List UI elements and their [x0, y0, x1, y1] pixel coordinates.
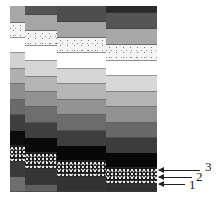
- layer-band: [10, 177, 25, 192]
- speckled-layer-band: [106, 168, 157, 184]
- layer-column-3: [57, 6, 106, 192]
- layer-band: [25, 107, 57, 123]
- speckled-layer-band: [10, 146, 25, 162]
- layer-band: [10, 38, 25, 53]
- layer-band: [57, 22, 106, 38]
- layer-band: [57, 84, 106, 100]
- layer-band: [25, 61, 57, 77]
- layer-band: [106, 153, 157, 168]
- layer-band: [106, 107, 157, 123]
- arrow-3-icon: [159, 170, 200, 171]
- layer-band: [10, 69, 25, 84]
- layer-band: [25, 185, 57, 192]
- speckled-layer-band: [57, 38, 106, 53]
- speckled-layer-band: [106, 45, 157, 61]
- layer-band: [25, 15, 57, 31]
- layer-band: [10, 84, 25, 100]
- layer-column-1: [10, 6, 25, 192]
- layer-band: [106, 184, 157, 192]
- layer-band: [25, 169, 57, 185]
- layer-band: [57, 146, 106, 161]
- layer-band: [25, 123, 57, 138]
- speckled-layer-band: [25, 31, 57, 46]
- layer-band: [106, 29, 157, 45]
- layer-band: [10, 53, 25, 69]
- layer-column-2: [25, 6, 57, 192]
- layer-column-4: [106, 6, 157, 192]
- layer-band: [25, 92, 57, 107]
- layer-band: [57, 115, 106, 131]
- layer-band: [10, 131, 25, 146]
- layer-band: [57, 177, 106, 192]
- layer-band: [57, 100, 106, 115]
- layer-band: [57, 131, 106, 146]
- arrow-label-2: 2: [196, 170, 203, 183]
- layer-band: [106, 138, 157, 153]
- arrow-label-3: 3: [205, 160, 212, 173]
- layer-band: [106, 92, 157, 107]
- layer-band: [106, 76, 157, 92]
- layer-band: [25, 6, 57, 15]
- layer-band: [106, 13, 157, 29]
- arrow-2-icon: [159, 177, 192, 178]
- speckled-layer-band: [10, 23, 25, 38]
- arrow-label-1: 1: [189, 178, 196, 191]
- layer-band: [57, 53, 106, 69]
- layer-band: [106, 6, 157, 13]
- layer-band: [57, 6, 106, 22]
- speckled-layer-band: [57, 161, 106, 177]
- layer-band: [25, 46, 57, 61]
- speckled-layer-band: [25, 153, 57, 169]
- layer-band: [10, 100, 25, 115]
- layer-band: [25, 77, 57, 92]
- layer-band: [25, 138, 57, 153]
- layer-band: [57, 69, 106, 84]
- layer-band: [106, 61, 157, 76]
- layer-band: [106, 123, 157, 138]
- layer-band: [10, 115, 25, 131]
- layer-band: [10, 162, 25, 177]
- layer-band: [10, 6, 25, 23]
- stratified-layer-diagram: 321: [0, 0, 222, 209]
- arrow-1-icon: [159, 184, 185, 185]
